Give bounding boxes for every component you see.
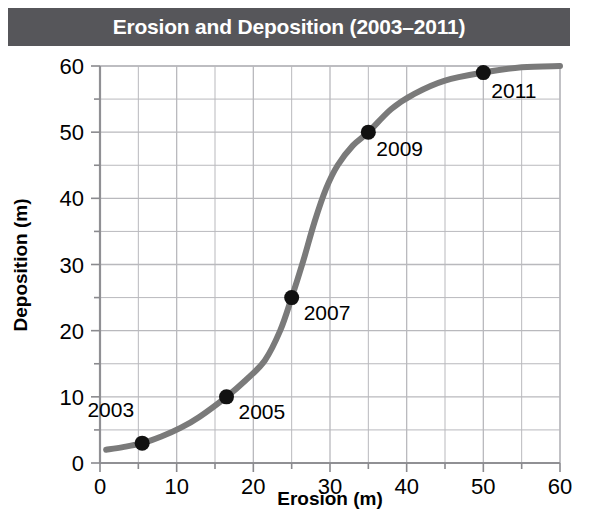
data-point — [476, 65, 491, 80]
plot-area: 01020304050600102030405060 2003200520072… — [0, 0, 595, 518]
x-tick-label: 50 — [471, 474, 495, 499]
x-tick-label: 20 — [241, 474, 265, 499]
x-tick-label: 30 — [318, 474, 342, 499]
x-tick-label: 60 — [548, 474, 572, 499]
y-tick-label: 10 — [60, 385, 84, 410]
data-curve — [106, 66, 560, 450]
x-tick-label: 40 — [394, 474, 418, 499]
data-point — [135, 436, 150, 451]
data-point-label: 2005 — [239, 400, 286, 423]
x-tick-label: 0 — [94, 474, 106, 499]
y-tick-label: 50 — [60, 120, 84, 145]
series-line — [106, 66, 560, 450]
grid-lines — [100, 66, 560, 463]
data-point-label: 2011 — [491, 79, 536, 102]
y-tick-label: 20 — [60, 319, 84, 344]
y-tick-label: 60 — [60, 54, 84, 79]
x-tick-label: 10 — [164, 474, 188, 499]
y-tick-label: 0 — [72, 451, 84, 476]
tick-labels: 01020304050600102030405060 — [60, 54, 573, 499]
y-tick-label: 30 — [60, 253, 84, 278]
chart-figure: Erosion and Deposition (2003–2011) Depos… — [0, 0, 595, 518]
data-points — [135, 65, 491, 451]
data-point-label: 2009 — [376, 137, 423, 160]
y-tick-label: 40 — [60, 186, 84, 211]
data-point — [361, 125, 376, 140]
data-point-labels: 20032005200720092011 — [87, 79, 536, 423]
data-point-label: 2003 — [87, 398, 134, 421]
data-point — [284, 290, 299, 305]
tick-marks — [91, 66, 560, 472]
data-point — [219, 389, 234, 404]
data-point-label: 2007 — [304, 301, 351, 324]
